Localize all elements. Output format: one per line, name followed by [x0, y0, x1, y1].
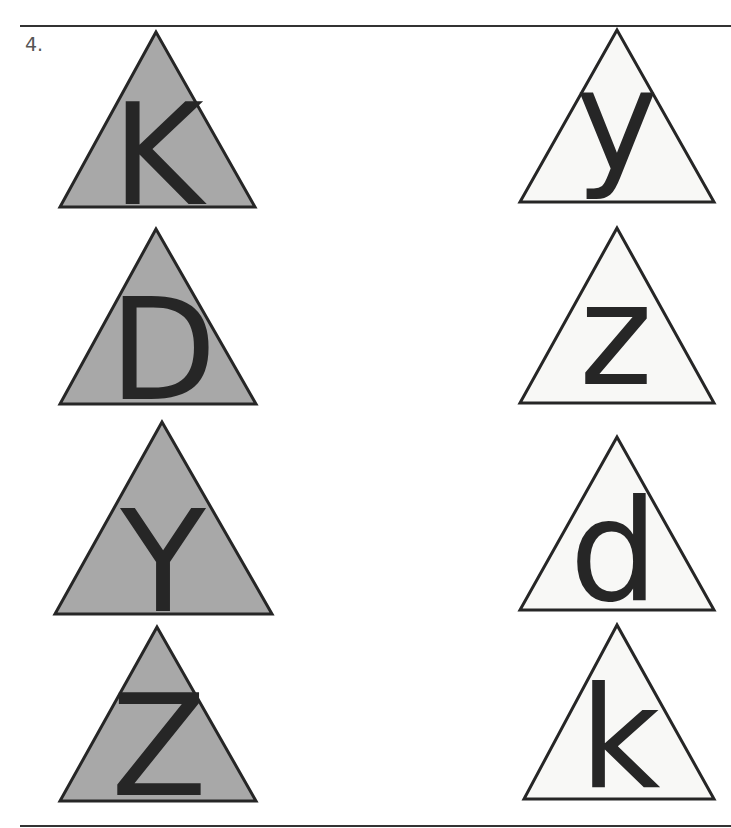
triangle-card-right-3[interactable]: d	[520, 437, 714, 633]
triangle-card-left-1[interactable]: K	[60, 32, 255, 237]
triangle-card-right-1[interactable]: y	[520, 30, 714, 203]
triangle-card-right-4[interactable]: k	[524, 625, 714, 820]
letter-uppercase: D	[109, 269, 217, 432]
letter-lowercase: k	[579, 657, 660, 820]
letter-lowercase: z	[579, 254, 653, 417]
letter-uppercase: Z	[111, 665, 207, 828]
letter-lowercase: y	[576, 40, 659, 203]
triangle-matching-area: K D Y Z y z d k	[0, 0, 731, 828]
triangle-card-left-4[interactable]: Z	[60, 627, 256, 828]
letter-lowercase: d	[570, 470, 659, 633]
letter-uppercase: K	[112, 74, 207, 237]
triangle-card-left-3[interactable]: Y	[55, 422, 272, 644]
triangle-card-left-2[interactable]: D	[60, 229, 256, 432]
letter-uppercase: Y	[119, 481, 206, 644]
triangle-card-right-2[interactable]: z	[520, 228, 714, 417]
